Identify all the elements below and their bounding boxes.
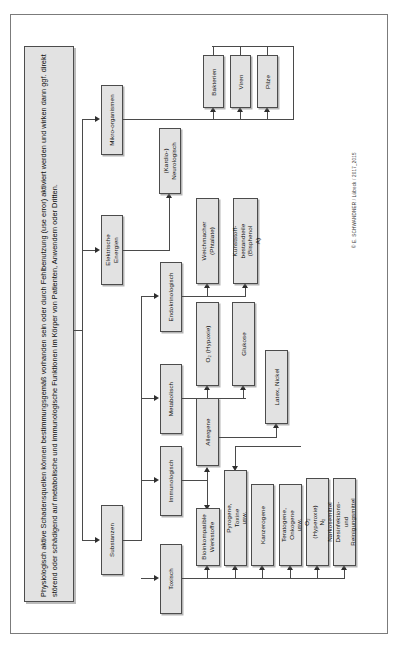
- node-bioinkompatible-werkstoffe[interactable]: Bioinkompatible Werkstoffe: [196, 508, 220, 566]
- node-label: Toxisch: [167, 568, 175, 590]
- node-o2-hypoxie[interactable]: O₂ (Hypoxie): [196, 302, 219, 386]
- arrow-endokrinologisch: [154, 293, 159, 299]
- toxisch-feeder-bus: [182, 578, 334, 579]
- node-label: Kanzerogene: [259, 506, 267, 544]
- node-teratogene-onkogene[interactable]: Teratogene, Onkogene usw.: [279, 484, 302, 566]
- node-label: (Kardio-) Neurologisch: [162, 142, 177, 180]
- toxisch-stem-bioinkompatible: [207, 570, 208, 579]
- node-mikroorganismen[interactable]: Mikro-organismen: [101, 85, 123, 155]
- allergene-stem-latex: [276, 428, 277, 438]
- elektrisch-child-stem: [169, 198, 170, 251]
- arrow-toxisch: [154, 575, 159, 581]
- substanzen-children-spine: [141, 296, 142, 541]
- node-kanzerogene[interactable]: Kanzerogene: [251, 484, 274, 566]
- endokrinologisch-stem-weichmacher: [207, 288, 208, 297]
- node-label: Bioinkompatible Werkstoffe: [200, 514, 215, 560]
- node-label: Endokrinologisch: [167, 272, 175, 321]
- node-kardio-neurologisch[interactable]: (Kardio-) Neurologisch: [159, 128, 181, 194]
- elektrisch-out-line: [123, 250, 170, 251]
- node-metabolisch[interactable]: Metabolisch: [160, 364, 182, 434]
- mikro-arrow-stem-bakterien: [213, 112, 214, 120]
- mikro-arrow-stem-viren: [240, 112, 241, 120]
- pyrogene-top-feed-vert: [235, 446, 236, 468]
- node-label: Pyrogene, Toxine usw.: [224, 503, 247, 532]
- pyrogene-top-feed-horiz: [235, 446, 301, 447]
- branch-line-substanzen: [82, 540, 95, 541]
- node-label: Allergene: [204, 418, 212, 445]
- arrow-metabolisch: [154, 395, 159, 401]
- endokrinologisch-out-line: [182, 296, 246, 297]
- node-label: Desinfektions- und Reinigungsmittel: [333, 498, 356, 546]
- node-latex-nickel[interactable]: Latex, Nickel: [265, 350, 288, 424]
- allergene-out-line: [219, 437, 277, 438]
- node-kunststoffbestandteile[interactable]: Kunststoff- bestandteile (Bisphenol A): [233, 198, 258, 284]
- diagram-page: Physiologisch aktive Schadensquellen kön…: [0, 0, 400, 647]
- node-label: Metabolisch: [167, 382, 175, 416]
- node-label: Latex, Nickel: [273, 368, 281, 405]
- node-label: Weichmacher (Phtalate): [200, 221, 215, 260]
- arrow-allergene: [204, 467, 210, 472]
- node-label: Glukose: [240, 332, 248, 356]
- endokrinologisch-stem-kunststoff: [245, 288, 246, 297]
- mikro-arrow-stem-pilze: [267, 112, 268, 120]
- substanzen-stub-toxisch: [141, 578, 154, 579]
- intro-panel: Physiologisch aktive Schadensquellen kön…: [24, 46, 74, 602]
- node-allergene[interactable]: Allergene: [196, 398, 219, 466]
- copyright-notice: © E. SCHWANDNER / Lübeck / 2017_2015: [352, 118, 357, 248]
- pyrogene-top-feed-riser: [300, 446, 301, 447]
- node-pilze[interactable]: Pilze: [257, 55, 278, 108]
- branch-line-mikro: [82, 119, 95, 120]
- substanzen-stub-endokrinologisch: [141, 296, 154, 297]
- node-endokrinologisch[interactable]: Endokrinologisch: [160, 262, 182, 332]
- mikro-children-top-line: [212, 46, 294, 47]
- mikro-feeder-line: [123, 119, 269, 120]
- node-label: Substanzen: [108, 523, 116, 557]
- substanzen-stub-immunologisch: [141, 480, 154, 481]
- node-glukose[interactable]: Glukose: [232, 302, 255, 386]
- toxisch-stem-kanzerogene: [262, 570, 263, 579]
- node-label: O₂ (Hypoxie): [204, 326, 212, 363]
- node-desinfektions-reinigungsmittel[interactable]: Desinfektions- und Reinigungsmittel: [333, 478, 356, 566]
- node-immunologisch[interactable]: Immunologisch: [160, 446, 182, 516]
- node-label: Kunststoff- bestandteile (Bisphenol A): [230, 224, 260, 259]
- toxisch-stem-o2-hyperoxie: [317, 570, 318, 579]
- node-pyrogene-toxine[interactable]: Pyrogene, Toxine usw.: [224, 470, 247, 566]
- node-bakterien[interactable]: Bakterien: [203, 55, 224, 108]
- node-label: Elektrische Energien: [104, 234, 119, 266]
- branch-line-elektrisch: [82, 250, 95, 251]
- node-label: Mikro-organismen: [108, 94, 116, 146]
- node-label: Pilze: [264, 74, 272, 88]
- node-elektrische-energien[interactable]: Elektrische Energien: [101, 215, 123, 285]
- node-label: Bakterien: [210, 68, 218, 95]
- arrow-elektrisch: [95, 247, 100, 253]
- node-label: Teratogene, Onkogene usw.: [279, 508, 302, 542]
- node-label: Immunologisch: [167, 459, 175, 502]
- node-viren[interactable]: Viren: [230, 55, 251, 108]
- substanzen-stub-metabolisch: [141, 398, 154, 399]
- toxisch-feeder-bus-ext: [333, 578, 345, 579]
- node-toxisch[interactable]: Toxisch: [160, 544, 182, 614]
- immunologisch-out-line: [182, 480, 208, 481]
- node-label: O₂ (Hyperoxie) N₂ Narkosemittel: [302, 502, 332, 541]
- node-o2-hyperoxie[interactable]: O₂ (Hyperoxie) N₂ Narkosemittel: [306, 478, 329, 566]
- intro-text: Physiologisch aktive Schadensquellen kön…: [38, 49, 61, 599]
- toxisch-stem-pyrogene: [235, 570, 236, 579]
- substanzen-out-line: [123, 540, 142, 541]
- arrow-substanzen: [95, 537, 100, 543]
- node-substanzen[interactable]: Substanzen: [101, 505, 123, 575]
- arrow-immunologisch: [154, 477, 159, 483]
- metabolisch-stem-glukose: [243, 390, 244, 399]
- root-spine-line: [82, 119, 83, 541]
- arrow-mikro: [95, 116, 100, 122]
- toxisch-stem-teratogene: [290, 570, 291, 579]
- immunologisch-stem-bioinkompatible: [207, 480, 208, 507]
- node-label: Viren: [237, 74, 245, 89]
- mikro-children-spine: [293, 46, 294, 120]
- node-weichmacher[interactable]: Weichmacher (Phtalate): [196, 198, 219, 284]
